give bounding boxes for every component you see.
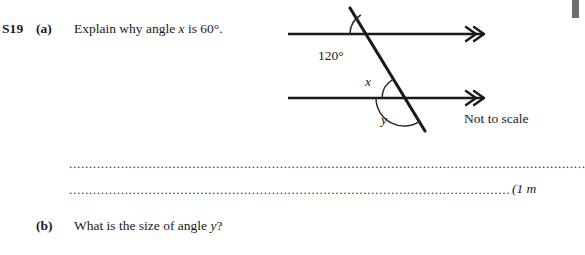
diagram-caption-not-to-scale: Not to scale bbox=[464, 111, 528, 127]
geometry-diagram: 120° x y Not to scale bbox=[288, 0, 585, 145]
angle-label-120: 120° bbox=[318, 48, 344, 64]
part-a-text-suffix: is 60°. bbox=[185, 21, 223, 36]
diagram-svg bbox=[288, 0, 585, 145]
transversal-line bbox=[350, 8, 425, 131]
part-a-text: Explain why angle x is 60°. bbox=[74, 21, 223, 37]
answer-line-1[interactable]: ........................................… bbox=[69, 156, 585, 170]
answer-line-2[interactable]: ........................................… bbox=[69, 182, 509, 196]
part-b-text: What is the size of angle y? bbox=[74, 218, 222, 234]
exam-question-page: S19 (a) Explain why angle x is 60°. 120° bbox=[0, 0, 585, 255]
angle-label-x: x bbox=[365, 74, 371, 90]
part-b-label: (b) bbox=[36, 218, 53, 234]
part-b-text-prefix: What is the size of angle bbox=[74, 218, 210, 233]
part-a-text-prefix: Explain why angle bbox=[74, 21, 179, 36]
question-number: S19 bbox=[2, 21, 23, 37]
part-a-label: (a) bbox=[36, 21, 52, 37]
angle-arc-x bbox=[382, 79, 393, 98]
part-b-text-suffix: ? bbox=[216, 218, 222, 233]
angle-label-y: y bbox=[381, 112, 387, 128]
marks-allocation: (1 m bbox=[512, 181, 585, 197]
